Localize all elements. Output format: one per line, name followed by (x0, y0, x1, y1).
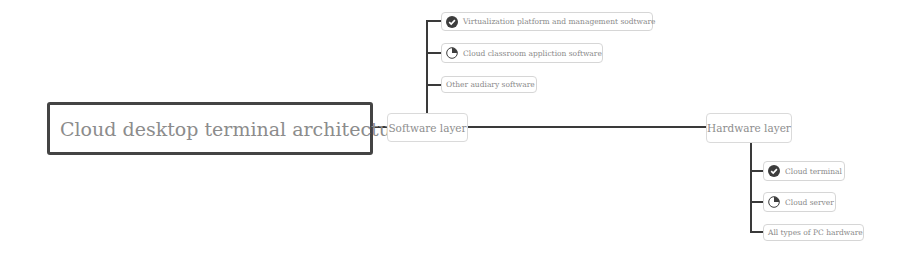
subtopic-label: Cloud classroom appliction software (463, 49, 602, 58)
subtopic-label: All types of PC hardware (768, 228, 863, 237)
check-icon (768, 165, 780, 177)
subtopic-cloud-terminal[interactable]: Cloud terminal (763, 161, 845, 181)
pie-quarter-icon (768, 196, 780, 208)
pie-quarter-icon (446, 47, 458, 59)
connector-hardware-children-trunk (750, 143, 752, 233)
topic-label: Hardware layer (707, 122, 791, 134)
subtopic-cloud-classroom[interactable]: Cloud classroom appliction software (441, 43, 603, 63)
topic-software-layer[interactable]: Software layer (387, 113, 468, 142)
subtopic-cloud-server[interactable]: Cloud server (763, 192, 836, 212)
connector-software-hardware (468, 126, 706, 128)
subtopic-label: Cloud terminal (785, 167, 842, 176)
subtopic-other-auxiliary[interactable]: Other audiary software (441, 76, 537, 93)
subtopic-label: Other audiary software (446, 80, 535, 89)
connector-software-children-trunk (426, 20, 428, 114)
subtopic-label: Cloud server (785, 198, 834, 207)
connector-hardware-child-2 (750, 201, 763, 203)
topic-hardware-layer[interactable]: Hardware layer (706, 113, 792, 143)
subtopic-label: Virtualization platform and management s… (463, 17, 656, 26)
connector-hardware-child-3 (750, 231, 763, 233)
connector-software-child-1 (426, 20, 441, 22)
connector-software-child-2 (426, 52, 441, 54)
root-topic-label: Cloud desktop terminal architecture (60, 118, 411, 140)
subtopic-virtualization-platform[interactable]: Virtualization platform and management s… (441, 12, 653, 31)
topic-label: Software layer (388, 122, 466, 134)
check-icon (446, 16, 458, 28)
connector-hardware-child-1 (750, 170, 763, 172)
root-topic[interactable]: Cloud desktop terminal architecture ⊡ (47, 102, 373, 155)
subtopic-pc-hardware[interactable]: All types of PC hardware (763, 224, 864, 241)
connector-software-child-3 (426, 84, 441, 86)
